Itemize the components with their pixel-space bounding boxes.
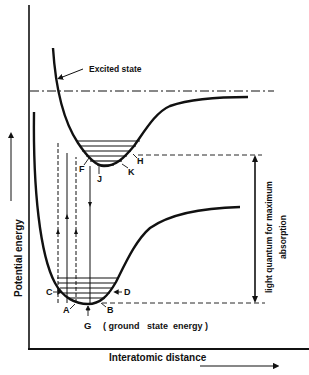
arrow-up-icon xyxy=(74,229,78,234)
excited-state-pointer-icon xyxy=(60,69,83,78)
pointer-g-icon xyxy=(86,306,90,316)
y-axis-label-group: Potential energy xyxy=(11,135,24,297)
x-axis-label: Interatomic distance xyxy=(109,352,207,363)
transition-arrowheads xyxy=(56,202,92,234)
point-label-c: C xyxy=(46,287,53,297)
pointer-a-icon xyxy=(70,304,75,309)
y-axis-label: Potential energy xyxy=(13,219,24,297)
potential-energy-diagram: Potential energy Interatomic distance Ex… xyxy=(0,0,309,375)
light-quantum-label-line2: absorption xyxy=(278,215,288,259)
x-axis-label-group: Interatomic distance xyxy=(109,352,276,366)
point-label-f: F xyxy=(79,164,85,174)
pointer-f-icon xyxy=(84,158,89,165)
point-label-b: B xyxy=(107,305,114,315)
point-label-h: H xyxy=(137,156,144,166)
arrow-down-icon xyxy=(88,202,92,207)
excited-state-curve xyxy=(53,48,248,166)
pointer-k-icon xyxy=(122,164,128,168)
point-label-a: A xyxy=(63,305,70,315)
arrow-up-icon xyxy=(65,214,69,219)
light-quantum-label-line1: light quantum for maximum xyxy=(264,181,274,293)
arrow-up-icon xyxy=(252,155,258,162)
arrow-down-icon xyxy=(252,296,258,303)
pointer-b-icon xyxy=(101,303,106,307)
ground-state-energy-label: ( ground state energy ) xyxy=(103,321,208,331)
transition-lines xyxy=(58,141,90,304)
point-label-g: G xyxy=(84,320,91,331)
excited-state-label: Excited state xyxy=(89,64,142,74)
point-label-d: D xyxy=(124,287,131,297)
arrow-up-icon xyxy=(56,229,60,234)
point-label-j: J xyxy=(97,174,102,184)
point-label-k: K xyxy=(128,167,135,177)
